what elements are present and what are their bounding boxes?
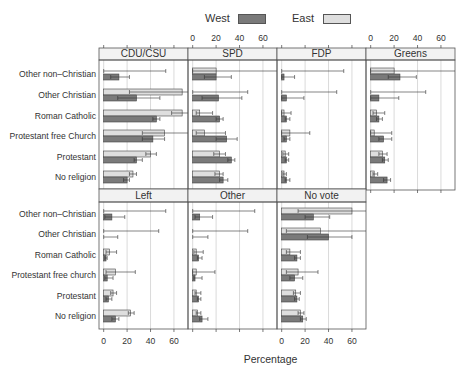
- bottom-tick-label: 0: [272, 336, 292, 346]
- row-label: Other non–Christian: [0, 209, 96, 219]
- panel-title-novote: No vote: [277, 189, 366, 202]
- west-bar: [193, 177, 223, 183]
- panel-title-spd: SPD: [188, 48, 277, 60]
- row-label: Roman Catholic: [0, 111, 96, 121]
- west-bar: [193, 157, 232, 163]
- east-bar: [104, 171, 133, 177]
- east-bar: [104, 310, 131, 316]
- panel-title-other: Other: [188, 189, 277, 202]
- row-label: No religion: [0, 172, 96, 182]
- row-label: Other Christian: [0, 90, 96, 100]
- top-tick-label: 0: [361, 33, 381, 43]
- bottom-tick-label: 20: [295, 336, 315, 346]
- top-tick-label: 20: [384, 33, 404, 43]
- west-bar: [104, 157, 137, 163]
- x-axis-label: Percentage: [0, 353, 471, 365]
- panel-title-cducsu: CDU/CSU: [99, 48, 188, 60]
- west-bar: [193, 116, 220, 122]
- bottom-tick-label: 40: [319, 336, 339, 346]
- panel-border: [277, 60, 366, 189]
- west-bar: [104, 116, 157, 122]
- row-label: Protestant: [0, 152, 96, 162]
- east-bar: [104, 151, 151, 157]
- top-tick-label: 40: [408, 33, 428, 43]
- top-tick-label: 60: [253, 33, 273, 43]
- bottom-tick-label: 20: [117, 336, 137, 346]
- west-bar: [282, 316, 303, 322]
- panel-border: [188, 202, 277, 329]
- top-tick-label: 20: [206, 33, 226, 43]
- row-label: Protestant: [0, 291, 96, 301]
- top-tick-label: 0: [183, 33, 203, 43]
- row-label: Other non–Christian: [0, 69, 96, 79]
- row-label: Other Christian: [0, 229, 96, 239]
- bottom-tick-label: 60: [342, 336, 362, 346]
- row-label: Protestant free church: [0, 270, 96, 280]
- east-bar: [104, 110, 182, 116]
- row-label: Roman Catholic: [0, 250, 96, 260]
- top-tick-label: 40: [230, 33, 250, 43]
- panel-title-greens: Greens: [366, 48, 455, 60]
- row-label: No religion: [0, 311, 96, 321]
- east-bar: [282, 310, 301, 316]
- bottom-tick-label: 40: [141, 336, 161, 346]
- top-tick-label: 60: [431, 33, 451, 43]
- bottom-tick-label: 0: [94, 336, 114, 346]
- panel-title-left: Left: [99, 189, 188, 202]
- row-label: Protestant free Church: [0, 131, 96, 141]
- panel-title-fdp: FDP: [277, 48, 366, 60]
- bottom-tick-label: 60: [164, 336, 184, 346]
